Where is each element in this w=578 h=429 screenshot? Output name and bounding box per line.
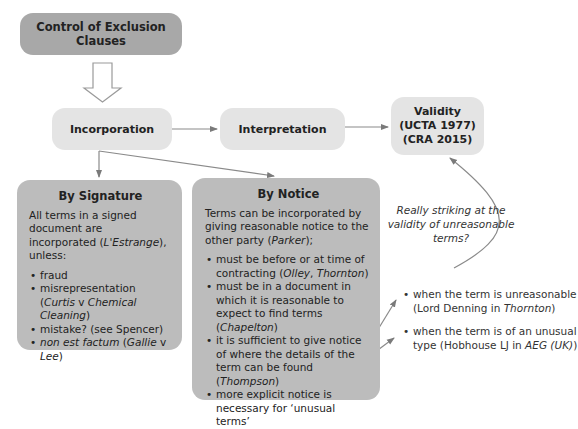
list-item: mistake? (see Spencer) (40, 323, 172, 337)
unusual-terms-list: when the term is unreasonable (Lord Denn… (402, 288, 578, 362)
list-item: when the term is unreasonable (Lord Denn… (413, 288, 578, 315)
card-by-notice: By Notice Terms can be incorporated by g… (192, 178, 380, 400)
node-label: Incorporation (70, 123, 154, 136)
hollow-down-arrow-icon (84, 63, 121, 102)
card-title: By Signature (29, 190, 172, 204)
node-label: Validity (414, 105, 461, 119)
node-control-of-exclusion-clauses: Control of Exclusion Clauses (20, 13, 182, 55)
card-title: By Notice (205, 188, 372, 202)
node-validity: Validity (UCTA 1977) (CRA 2015) (391, 97, 484, 155)
node-incorporation: Incorporation (52, 108, 172, 150)
annotation-note: Really striking at the validity of unrea… (387, 203, 515, 245)
arrow-incorporation-to-notice (99, 151, 274, 176)
list-item: must be before or at time of contracting… (216, 253, 372, 280)
node-interpretation: Interpretation (220, 108, 345, 150)
bullet-list: fraud misrepresentation (Curtis v Chemic… (29, 269, 172, 364)
list-item: fraud (40, 269, 172, 283)
node-label: (UCTA 1977) (399, 119, 476, 133)
list-item: misrepresentation (Curtis v Chemical Cle… (40, 282, 172, 323)
list-item: more explicit notice is necessary for ‘u… (216, 388, 372, 429)
card-by-signature: By Signature All terms in a signed docum… (17, 180, 182, 350)
list-item: it is sufficient to give notice of where… (216, 334, 372, 388)
list-item: must be in a document in which it is rea… (216, 280, 372, 334)
card-intro: All terms in a signed document are incor… (29, 209, 172, 263)
list-item: when the term is of an unusual type (Hob… (413, 325, 578, 352)
node-label: Interpretation (239, 123, 327, 136)
node-label: (CRA 2015) (403, 133, 473, 147)
card-intro: Terms can be incorporated by giving reas… (205, 207, 372, 248)
node-label: Control of Exclusion Clauses (20, 20, 182, 48)
bullet-list: must be before or at time of contracting… (205, 253, 372, 429)
list-item: non est factum (Gallie v Lee) (40, 336, 172, 363)
